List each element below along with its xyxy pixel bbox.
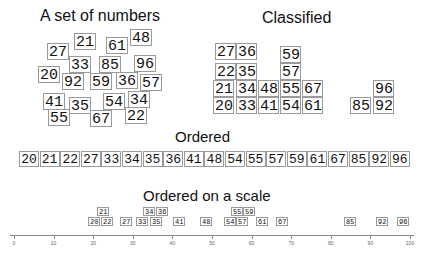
number-box: 20	[19, 151, 39, 167]
number-box: 41	[258, 97, 279, 114]
number-box: 20	[38, 66, 60, 83]
number-box: 35	[236, 63, 257, 80]
title-scale: Ordered on a scale	[143, 187, 271, 204]
number-box: 36	[116, 72, 138, 89]
number-box: 61	[256, 217, 268, 226]
number-box: 67	[276, 217, 288, 226]
number-box: 20	[88, 217, 100, 226]
number-box: 22	[101, 217, 113, 226]
number-box: 27	[215, 43, 236, 60]
number-box: 92	[62, 73, 84, 90]
number-box: 61	[302, 97, 323, 114]
title-classified: Classified	[262, 9, 331, 27]
number-box: 85	[350, 97, 371, 114]
number-box: 27	[47, 43, 69, 60]
axis-tick-label: 40	[170, 240, 176, 246]
number-box: 22	[125, 107, 147, 124]
number-box: 67	[328, 151, 348, 167]
number-box: 36	[236, 43, 257, 60]
number-box: 59	[90, 73, 112, 90]
number-box: 34	[122, 151, 142, 167]
number-box: 59	[287, 151, 307, 167]
number-box: 57	[236, 217, 248, 226]
number-box: 85	[349, 151, 369, 167]
number-box: 57	[140, 74, 162, 91]
number-box: 92	[369, 151, 389, 167]
number-box: 35	[69, 97, 91, 114]
number-box: 57	[266, 151, 286, 167]
axis-tick	[54, 235, 55, 239]
number-box: 54	[103, 93, 125, 110]
axis-tick	[212, 235, 213, 239]
axis-tick-label: 80	[328, 240, 334, 246]
number-box: 34	[143, 207, 155, 216]
number-box: 21	[40, 151, 60, 167]
number-box: 41	[173, 217, 185, 226]
axis-tick	[14, 235, 15, 239]
number-box: 36	[163, 151, 183, 167]
axis-tick-label: 20	[90, 240, 96, 246]
number-box: 48	[204, 151, 224, 167]
number-box: 48	[130, 29, 152, 46]
number-box: 35	[150, 217, 162, 226]
number-box: 55	[280, 80, 301, 97]
number-box: 35	[143, 151, 163, 167]
number-box: 48	[258, 80, 279, 97]
number-box: 67	[302, 80, 323, 97]
number-box: 67	[90, 110, 112, 127]
axis-tick	[331, 235, 332, 239]
axis-tick-label: 70	[288, 240, 294, 246]
number-box: 59	[243, 207, 255, 216]
number-box: 96	[390, 151, 410, 167]
number-box: 96	[134, 55, 156, 72]
axis-tick-label: 60	[249, 240, 255, 246]
number-box: 85	[344, 217, 356, 226]
axis-tick-label: 100	[406, 240, 414, 246]
number-box: 54	[225, 151, 245, 167]
number-box: 92	[373, 97, 394, 114]
axis-tick-label: 90	[368, 240, 374, 246]
axis-tick	[172, 235, 173, 239]
number-box: 85	[99, 56, 121, 73]
axis-tick	[93, 235, 94, 239]
number-box: 54	[280, 97, 301, 114]
number-box: 21	[74, 33, 96, 50]
number-box: 22	[215, 63, 236, 80]
number-box: 33	[236, 97, 257, 114]
number-box: 27	[120, 217, 132, 226]
number-box: 55	[48, 109, 70, 126]
number-box: 55	[246, 151, 266, 167]
number-box: 59	[280, 46, 301, 63]
number-box: 96	[397, 217, 409, 226]
number-box: 55	[231, 207, 243, 216]
number-box: 33	[136, 217, 148, 226]
number-box: 41	[43, 93, 65, 110]
number-box: 61	[307, 151, 327, 167]
number-box: 20	[213, 97, 234, 114]
axis-tick	[410, 235, 411, 239]
number-box: 92	[376, 217, 388, 226]
axis-tick-label: 10	[51, 240, 57, 246]
number-box: 33	[69, 56, 91, 73]
title-set: A set of numbers	[40, 7, 160, 25]
axis-tick	[252, 235, 253, 239]
axis-tick	[370, 235, 371, 239]
number-box: 22	[60, 151, 80, 167]
number-box: 48	[200, 217, 212, 226]
number-box: 21	[97, 207, 109, 216]
number-box: 27	[81, 151, 101, 167]
axis-tick-label: 50	[209, 240, 215, 246]
axis-tick-label: 30	[130, 240, 136, 246]
number-box: 33	[101, 151, 121, 167]
number-box: 57	[280, 63, 301, 80]
title-ordered: Ordered	[175, 128, 230, 145]
number-box: 41	[184, 151, 204, 167]
number-box: 54	[224, 217, 236, 226]
axis-tick	[291, 235, 292, 239]
number-box: 61	[106, 37, 128, 54]
number-box: 21	[213, 80, 234, 97]
axis-tick-label: 0	[13, 240, 16, 246]
number-box: 34	[236, 80, 257, 97]
number-box: 36	[156, 207, 168, 216]
number-box: 34	[128, 91, 150, 108]
